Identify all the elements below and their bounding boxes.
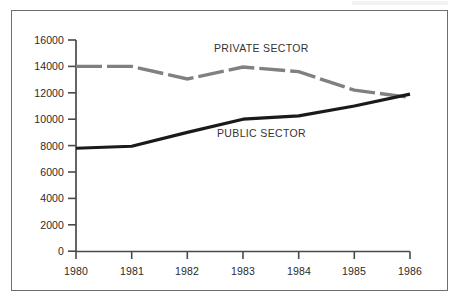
- y-axis-label-12000: 12000: [18, 87, 64, 99]
- x-axis-label-1982: 1982: [165, 265, 209, 277]
- series-annotation-private-sector: PRIVATE SECTOR: [214, 42, 309, 54]
- y-axis-label-2000: 2000: [18, 219, 64, 231]
- x-axis-label-1984: 1984: [277, 265, 321, 277]
- series-annotation-public-sector: PUBLIC SECTOR: [217, 127, 306, 139]
- x-axis-label-1986: 1986: [388, 265, 432, 277]
- x-axis-label-1981: 1981: [110, 265, 154, 277]
- y-axis-label-10000: 10000: [18, 113, 64, 125]
- x-axis-label-1983: 1983: [221, 265, 265, 277]
- y-axis-label-8000: 8000: [18, 140, 64, 152]
- y-axis-label-0: 0: [18, 245, 64, 257]
- series-line-private-sector: [76, 66, 410, 97]
- x-axis-ticks: [76, 252, 410, 260]
- chart-figure: 16000 14000 12000 10000 8000 6000 4000 2…: [0, 0, 457, 302]
- y-axis-label-14000: 14000: [18, 60, 64, 72]
- y-axis-label-4000: 4000: [18, 192, 64, 204]
- x-axis-label-1980: 1980: [54, 265, 98, 277]
- series-line-public-sector: [76, 94, 410, 148]
- y-axis-ticks: [68, 40, 76, 251]
- x-axis-label-1985: 1985: [332, 265, 376, 277]
- y-axis-label-6000: 6000: [18, 166, 64, 178]
- y-axis-label-16000: 16000: [18, 34, 64, 46]
